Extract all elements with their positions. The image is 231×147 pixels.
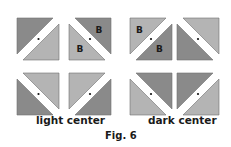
light-center-caption: light center — [36, 114, 105, 126]
svg-text:B: B — [96, 25, 103, 35]
dark-center-square-top-left: B B — [130, 18, 172, 60]
svg-text:B: B — [156, 44, 163, 54]
svg-text:B: B — [136, 25, 143, 35]
figure-caption: Fig. 6 — [105, 130, 137, 141]
light-center-square-top-left — [17, 18, 59, 60]
light-center-square-top-right: B B — [69, 18, 111, 60]
light-center-square-bottom-left — [17, 73, 59, 115]
light-center-square-bottom-right — [69, 73, 111, 115]
dark-center-square-bottom-right — [177, 73, 219, 115]
svg-text:B: B — [77, 44, 84, 54]
dark-center-caption: dark center — [148, 114, 217, 126]
dark-center-square-bottom-left — [130, 73, 172, 115]
dark-center-square-top-right — [177, 18, 219, 60]
